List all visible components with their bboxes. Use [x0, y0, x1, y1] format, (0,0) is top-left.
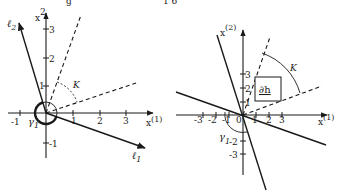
figure-canvas: g 1 6 -1 1 2 3 1 2 3 -1 x(1) x2 ℓ1 ℓ2: [0, 0, 353, 193]
cone-label-k: K: [72, 80, 81, 90]
right-curve-gamma1-label: γ1: [219, 131, 230, 146]
right-x-tick-label: 0: [236, 115, 242, 125]
top-fragment-right: 1 6: [163, 0, 178, 6]
line-l1: [46, 113, 145, 148]
line-l2-label: ℓ2: [7, 18, 16, 32]
right-x-tick-label: -3: [194, 115, 203, 125]
left-x-tick-label: 3: [123, 116, 129, 126]
left-x-axis-label: x(1): [146, 115, 162, 128]
line-l2: [19, 23, 46, 113]
left-x-tick-label: 1: [71, 116, 77, 126]
left-y-tick-label: 2: [49, 54, 55, 64]
left-y-tick-label: -1: [49, 139, 58, 149]
left-x-tick-label: -1: [11, 117, 20, 127]
right-x-tick-label: -1: [222, 115, 231, 125]
line-l1-label: ℓ1: [132, 150, 141, 164]
left-y-tick-label: 3: [49, 25, 55, 35]
right-y-tick-label: 2: [245, 84, 251, 94]
left-diagram: -1 1 2 3 1 2 3 -1 x(1) x2 ℓ1 ℓ2 K γ1: [7, 7, 162, 164]
right-x-tick-label: -2: [208, 115, 217, 125]
left-x-tick-label: 2: [97, 116, 103, 126]
left-y-axis-label: x2: [35, 7, 46, 23]
left-y-tick-label: 1: [39, 81, 45, 91]
right-y-axis-label: x(2): [220, 23, 236, 38]
right-diagram: -3 -2 -1 0 1 2 3 1 2 3 -2 -3 x(1) x(2) K…: [176, 23, 334, 190]
right-y-tick-label: -2: [229, 137, 238, 147]
right-line-steep: [217, 35, 266, 190]
right-y-tick-label: 3: [245, 70, 251, 80]
right-x-tick-label: 3: [279, 115, 285, 125]
boundary-h-label: ∂h: [259, 84, 271, 95]
right-y-tick-label: -3: [229, 150, 238, 160]
cone-boundary-lower: [46, 82, 139, 113]
right-cone-label-k: K: [289, 63, 298, 73]
top-fragment-left: g: [66, 0, 72, 6]
